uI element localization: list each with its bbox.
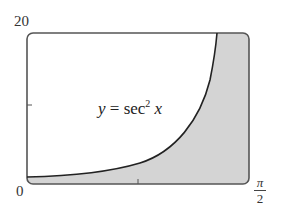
eq-exp: 2: [145, 98, 150, 109]
x-tick-label-pi-over-2: π 2: [254, 176, 266, 205]
y-tick-label-20: 20: [14, 14, 29, 29]
eq-var: x: [155, 99, 163, 118]
eq-lhs: y: [98, 99, 106, 118]
eq-fn: sec: [124, 99, 146, 118]
eq-sign: =: [110, 99, 120, 118]
origin-label: 0: [16, 184, 24, 199]
fraction-denominator: 2: [254, 192, 266, 205]
function-label: y = sec2 x: [98, 98, 162, 119]
fraction-numerator: π: [254, 176, 266, 189]
